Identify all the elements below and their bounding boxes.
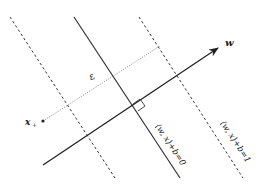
svg-text:x: x [24,117,31,127]
epsilon-label: ε [87,70,97,82]
left-margin-line [10,17,115,178]
normal-vector-arrow [43,48,218,165]
svg-text:+: + [32,121,37,128]
x-plus-label: x + [24,117,37,128]
hyperplane-1-label: ⟨w, x⟩+b=1 [218,119,253,165]
distance-dotted-line [43,46,160,121]
decision-boundary-line [74,17,180,178]
x-plus-point [41,119,44,122]
svm-margin-diagram: w ε x + ⟨w, x⟩+b=0 ⟨w, x⟩+b=1 [0,0,266,191]
w-label: w [225,37,234,48]
